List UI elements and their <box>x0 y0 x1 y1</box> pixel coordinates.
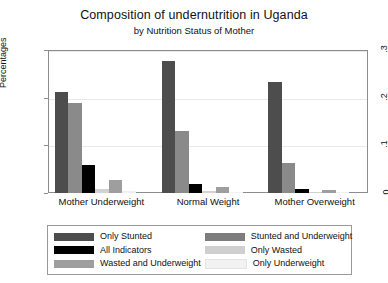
legend-label: Only Wasted <box>251 246 302 255</box>
bar <box>336 192 350 193</box>
chart-legend: Only StuntedStunted and UnderweightAll I… <box>47 225 352 275</box>
legend-item: Only Wasted <box>205 244 353 258</box>
legend-label: Stunted and Underweight <box>251 232 353 241</box>
bar <box>82 165 96 193</box>
bar <box>309 192 323 193</box>
chart-subtitle: by Nutrition Status of Mother <box>0 25 388 36</box>
bar <box>216 187 230 193</box>
legend-item: Stunted and Underweight <box>205 230 353 244</box>
legend-item: Only Underweight <box>205 257 353 271</box>
legend-swatch <box>205 246 245 254</box>
legend-swatch <box>54 246 94 254</box>
legend-swatch <box>205 233 245 241</box>
bar <box>189 184 203 193</box>
bar <box>268 82 282 193</box>
bar <box>122 191 136 193</box>
legend-item: Only Stunted <box>54 230 201 244</box>
bar <box>68 103 82 193</box>
bar <box>95 189 109 193</box>
chart-title: Composition of undernutrition in Uganda <box>0 8 388 22</box>
legend-item: All Indicators <box>54 244 201 258</box>
bar <box>295 189 309 193</box>
bar <box>202 191 216 193</box>
bar <box>162 61 176 194</box>
legend-label: Only Underweight <box>253 259 325 268</box>
y-axis-tick-mark <box>44 193 48 194</box>
bar <box>229 192 243 193</box>
bar-series-layer <box>48 50 368 193</box>
x-axis-tick-label: Normal Weight <box>155 196 262 207</box>
legend-item: Wasted and Underweight <box>54 257 201 271</box>
legend-swatch <box>54 233 94 241</box>
y-axis-label: Percentages <box>0 37 8 88</box>
bar <box>175 131 189 193</box>
chart-figure: Composition of undernutrition in Uganda … <box>0 0 388 283</box>
bar <box>282 163 296 194</box>
legend-label: All Indicators <box>100 246 152 255</box>
legend-swatch <box>205 259 247 269</box>
x-axis-tick-label: Mother Underweight <box>48 196 155 207</box>
x-axis-tick-label: Mother Overweight <box>261 196 368 207</box>
bar <box>109 180 123 193</box>
bar <box>322 190 336 193</box>
legend-label: Wasted and Underweight <box>100 259 201 268</box>
legend-swatch <box>54 260 94 268</box>
bar <box>55 92 69 193</box>
legend-label: Only Stunted <box>100 232 152 241</box>
